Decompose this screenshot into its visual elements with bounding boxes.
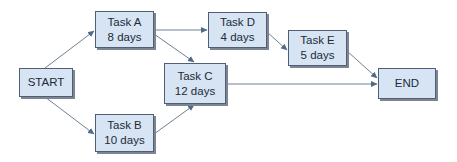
node-task-c-duration: 12 days: [175, 84, 215, 99]
edge-taskD-taskE: [267, 32, 287, 50]
node-end-label: END: [395, 76, 419, 91]
node-task-c-label: Task C: [177, 69, 212, 84]
node-task-e-duration: 5 days: [301, 48, 335, 63]
node-task-b: Task B 10 days: [95, 114, 154, 152]
edge-start-taskA: [45, 31, 94, 68]
node-start: START: [19, 68, 73, 97]
node-task-b-duration: 10 days: [104, 133, 144, 148]
node-task-e-label: Task E: [300, 33, 335, 48]
node-start-label: START: [28, 75, 65, 90]
node-task-a-label: Task A: [108, 15, 142, 30]
node-task-a-duration: 8 days: [108, 30, 142, 45]
node-task-e: Task E 5 days: [288, 30, 347, 66]
network-diagram: START Task A 8 days Task B 10 days Task …: [0, 0, 457, 162]
edge-start-taskB: [45, 97, 94, 134]
edge-taskB-taskC: [154, 105, 194, 134]
edge-taskE-end: [347, 51, 377, 78]
node-task-d-duration: 4 days: [221, 30, 255, 45]
node-task-a: Task A 8 days: [95, 11, 154, 48]
node-task-d: Task D 4 days: [208, 12, 267, 48]
node-task-d-label: Task D: [220, 15, 255, 30]
node-task-b-label: Task B: [107, 118, 142, 133]
node-end: END: [378, 68, 436, 99]
node-task-c: Task C 12 days: [164, 63, 226, 104]
edge-taskA-taskC: [154, 34, 194, 62]
